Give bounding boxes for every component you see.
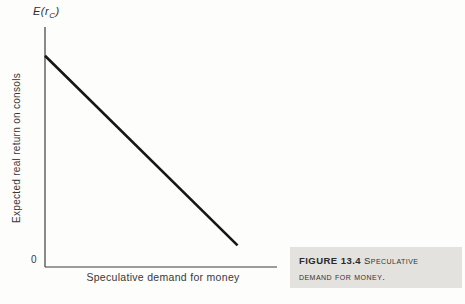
x-axis-title: Speculative demand for money bbox=[86, 271, 239, 283]
figure-number: FIGURE 13.4 bbox=[299, 255, 361, 266]
y-axis-title: Expected real return on consols bbox=[11, 73, 22, 223]
y-var-pre: E(r bbox=[33, 5, 49, 17]
y-axis-variable-label: E(rC) bbox=[33, 5, 60, 20]
y-var-post: ) bbox=[55, 5, 59, 17]
demand-curve-line bbox=[45, 56, 238, 246]
figure-13-4-panel: E(rC) Expected real return on consols 0 … bbox=[0, 0, 465, 304]
figure-caption: FIGURE 13.4 Speculative demand for money… bbox=[290, 247, 462, 288]
origin-tick-label: 0 bbox=[31, 254, 37, 265]
